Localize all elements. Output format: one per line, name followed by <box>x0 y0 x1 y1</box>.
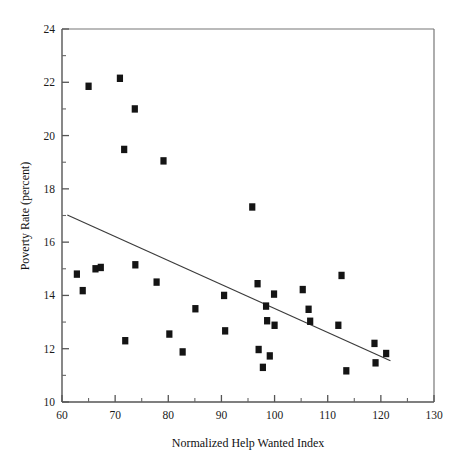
data-point-marker <box>263 302 269 309</box>
data-point-marker <box>271 290 277 297</box>
data-point-marker <box>85 83 91 90</box>
data-point-marker <box>132 261 138 268</box>
y-axis-title: Poverty Rate (percent) <box>18 162 32 271</box>
data-point-marker <box>300 286 306 293</box>
x-tick-label: 70 <box>109 409 121 421</box>
data-point-marker <box>122 337 128 344</box>
data-point-marker <box>371 340 377 347</box>
x-tick-label: 60 <box>56 409 68 421</box>
data-point-marker <box>249 203 255 210</box>
regression-line <box>67 215 390 361</box>
x-tick-label: 120 <box>372 409 390 421</box>
y-axis-tick-labels: 1012141618202224 <box>44 23 56 408</box>
data-point-marker <box>98 264 104 271</box>
data-point-marker <box>372 359 378 366</box>
data-point-marker <box>254 280 260 287</box>
data-point-marker <box>260 364 266 371</box>
x-tick-label: 90 <box>216 409 228 421</box>
y-tick-label: 18 <box>44 183 56 195</box>
y-tick-label: 22 <box>44 76 56 88</box>
data-point-marker <box>166 330 172 337</box>
x-tick-label: 80 <box>163 409 175 421</box>
axis-ticks <box>62 29 434 402</box>
y-tick-label: 10 <box>44 396 56 408</box>
data-point-marker <box>80 287 86 294</box>
scatter-plot-figure: 60708090100110120130 1012141618202224 No… <box>0 0 463 464</box>
y-tick-label: 20 <box>44 130 56 142</box>
data-point-marker <box>180 348 186 355</box>
data-point-marker <box>335 322 341 329</box>
x-axis-title: Normalized Help Wanted Index <box>172 436 324 450</box>
data-point-marker <box>264 317 270 324</box>
data-point-marker <box>305 306 311 313</box>
data-point-marker <box>343 367 349 374</box>
y-tick-label: 16 <box>44 236 56 248</box>
data-point-marker <box>132 105 138 112</box>
x-tick-label: 110 <box>319 409 336 421</box>
data-point-marker <box>271 322 277 329</box>
data-point-marker <box>307 318 313 325</box>
data-point-marker <box>222 327 228 334</box>
chart-canvas: 60708090100110120130 1012141618202224 No… <box>0 0 463 464</box>
y-tick-label: 14 <box>44 289 56 301</box>
data-point-marker <box>153 278 159 285</box>
x-axis-tick-labels: 60708090100110120130 <box>56 409 443 421</box>
data-point-marker <box>338 272 344 279</box>
data-point-marker <box>267 352 273 359</box>
trend-line <box>67 215 390 361</box>
y-tick-label: 24 <box>44 23 56 35</box>
y-tick-label: 12 <box>44 343 56 355</box>
data-point-marker <box>383 350 389 357</box>
data-points <box>74 75 389 375</box>
x-tick-label: 100 <box>266 409 284 421</box>
data-point-marker <box>192 305 198 312</box>
data-point-marker <box>160 157 166 164</box>
data-point-marker <box>92 265 98 272</box>
x-tick-label: 130 <box>425 409 443 421</box>
data-point-marker <box>117 75 123 82</box>
data-point-marker <box>256 346 262 353</box>
data-point-marker <box>74 270 80 277</box>
data-point-marker <box>221 292 227 299</box>
data-point-marker <box>121 146 127 153</box>
plot-frame <box>62 29 434 402</box>
